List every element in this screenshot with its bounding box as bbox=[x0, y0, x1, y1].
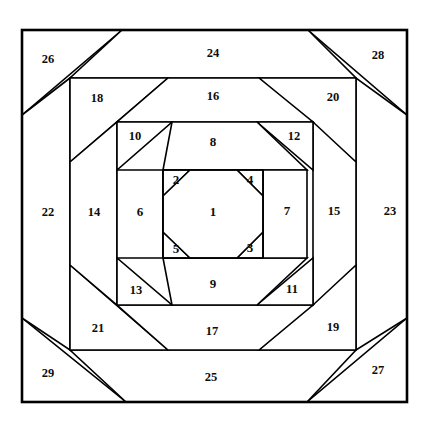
quilt-block-svg: 1234567891011121314151617181920212223242… bbox=[0, 0, 430, 421]
piece-label-22: 22 bbox=[42, 205, 55, 219]
piece-label-20: 20 bbox=[327, 90, 340, 104]
piece-label-9: 9 bbox=[210, 276, 217, 291]
piece-label-8: 8 bbox=[210, 134, 217, 149]
piece-label-3: 3 bbox=[247, 240, 254, 255]
piece-label-2: 2 bbox=[173, 172, 180, 187]
piece-label-29: 29 bbox=[42, 366, 55, 380]
piece-label-12: 12 bbox=[288, 129, 301, 143]
piece-label-25: 25 bbox=[205, 370, 218, 384]
piece-label-27: 27 bbox=[372, 363, 385, 377]
piece-label-21: 21 bbox=[92, 321, 105, 335]
piece-label-7: 7 bbox=[284, 203, 291, 218]
piece-label-19: 19 bbox=[327, 320, 340, 334]
piece-label-18: 18 bbox=[91, 91, 104, 105]
piece-label-15: 15 bbox=[328, 204, 341, 218]
piece-label-17: 17 bbox=[206, 324, 219, 338]
piece-label-4: 4 bbox=[247, 172, 254, 187]
piece-label-11: 11 bbox=[286, 282, 298, 296]
piece-label-5: 5 bbox=[173, 241, 180, 256]
piece-label-28: 28 bbox=[372, 48, 385, 62]
quilt-block-diagram: 1234567891011121314151617181920212223242… bbox=[0, 0, 430, 421]
piece-label-23: 23 bbox=[384, 204, 397, 218]
quilt-piece-23 bbox=[356, 78, 407, 350]
piece-label-16: 16 bbox=[207, 89, 220, 103]
piece-label-26: 26 bbox=[42, 52, 55, 66]
piece-label-6: 6 bbox=[137, 204, 144, 219]
piece-label-1: 1 bbox=[210, 204, 217, 219]
piece-label-13: 13 bbox=[130, 283, 143, 297]
piece-label-10: 10 bbox=[129, 129, 142, 143]
piece-label-14: 14 bbox=[88, 205, 101, 219]
piece-label-24: 24 bbox=[207, 46, 220, 60]
